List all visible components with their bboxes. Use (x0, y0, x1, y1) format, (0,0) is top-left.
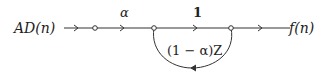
gain-one-label: 1 (193, 5, 202, 20)
node-2 (152, 26, 157, 31)
input-label: AD(n) (12, 20, 55, 36)
arrow-feedback (191, 65, 196, 71)
signal-flow-graph: AD(n) α 1 (1 − α)Z f(n) (0, 0, 324, 77)
feedback-gain-label: (1 − α)Z (167, 43, 222, 58)
node-3 (229, 26, 234, 31)
output-label: f(n) (288, 20, 314, 36)
node-1 (93, 26, 98, 31)
gain-alpha-label: α (120, 5, 129, 20)
